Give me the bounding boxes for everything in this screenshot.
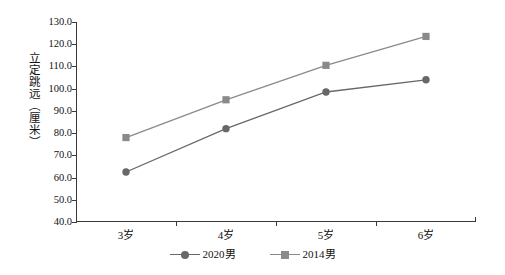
series-layer	[76, 22, 476, 222]
x-axis-tick-label: 6岁	[418, 228, 435, 242]
plot-area	[76, 22, 476, 222]
x-axis-tick-label: 5岁	[318, 228, 335, 242]
data-point-circle	[122, 168, 129, 175]
y-axis-tick-mark	[72, 111, 77, 112]
y-axis-tick-mark	[72, 66, 77, 67]
y-axis-tick-mark	[72, 44, 77, 45]
legend-circle-icon	[170, 249, 200, 260]
y-axis-tick-label: 70.0	[40, 150, 72, 161]
x-axis-tick-mark	[475, 217, 476, 222]
y-axis-title: 立定跳远（厘米）	[18, 52, 40, 148]
x-axis-tick-label: 4岁	[218, 228, 235, 242]
y-axis-tick-mark	[72, 89, 77, 90]
y-axis-tick-label: 120.0	[40, 39, 72, 50]
y-axis-tick-mark	[72, 133, 77, 134]
legend-item-2[interactable]: 2014男	[270, 248, 336, 261]
y-axis-tick-label: 130.0	[40, 17, 72, 28]
data-point-circle	[222, 125, 229, 132]
data-point-square	[422, 33, 429, 40]
series-line-1	[126, 80, 426, 172]
x-axis-tick-mark	[176, 221, 177, 226]
data-point-circle	[322, 88, 329, 95]
legend-label: 2020男	[203, 248, 236, 261]
x-axis-tick-mark	[276, 221, 277, 226]
x-axis-tick-label: 3岁	[118, 228, 135, 242]
y-axis-tick-label: 80.0	[40, 128, 72, 139]
x-axis-tick-mark	[376, 221, 377, 226]
y-axis-tick-mark	[72, 178, 77, 179]
legend: 2020男2014男	[0, 248, 505, 261]
y-axis-tick-label: 50.0	[40, 195, 72, 206]
data-point-square	[222, 96, 229, 103]
legend-label: 2014男	[303, 248, 336, 261]
x-axis-tick-labels: 3岁4岁5岁6岁	[76, 228, 476, 246]
data-point-circle	[422, 76, 429, 83]
line-chart: 立定跳远（厘米） 130.0120.0110.0100.090.080.070.…	[0, 0, 505, 275]
y-axis-tick-mark	[72, 200, 77, 201]
y-axis-tick-mark	[72, 222, 77, 223]
y-axis-tick-mark	[72, 22, 77, 23]
series-line-2	[126, 36, 426, 137]
y-axis-tick-label: 90.0	[40, 106, 72, 117]
legend-item-1[interactable]: 2020男	[170, 248, 236, 261]
y-axis-tick-label: 100.0	[40, 83, 72, 94]
y-axis-tick-labels: 130.0120.0110.0100.090.080.070.060.050.0…	[40, 22, 72, 222]
data-point-square	[322, 62, 329, 69]
y-axis-tick-label: 40.0	[40, 217, 72, 228]
data-point-square	[122, 134, 129, 141]
legend-square-icon	[270, 249, 300, 260]
y-axis-tick-mark	[72, 155, 77, 156]
y-axis-tick-label: 110.0	[40, 61, 72, 72]
y-axis-tick-label: 60.0	[40, 172, 72, 183]
